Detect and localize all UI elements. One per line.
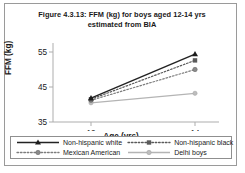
legend-key-non-hispanic-white: [15, 138, 61, 147]
chart-legend: Non-hispanic white Non-hispanic black Me…: [10, 136, 232, 159]
legend-key-mexican-american: [15, 148, 61, 157]
legend-label-mexican-american: Mexican American: [63, 149, 120, 156]
plot-area: FFM (kg) Age (yrs) 55 45 35 12 14: [13, 31, 229, 129]
y-axis-label: FFM (kg): [4, 41, 13, 75]
legend-label-non-hispanic-black: Non-hispanic black: [174, 139, 233, 146]
legend-key-delhi-boys: [126, 148, 172, 157]
legend-label-non-hispanic-white: Non-hispanic white: [63, 139, 122, 146]
y-tick-label-35: 35: [38, 118, 48, 127]
legend-key-non-hispanic-black: [126, 138, 172, 147]
x-tick-label-12: 12: [86, 129, 96, 131]
figure-title: Figure 4.3.13: FFM (kg) for boys aged 12…: [27, 10, 217, 30]
y-tick-label-55: 55: [38, 48, 48, 57]
series-delhi-boys: [89, 91, 197, 105]
line-chart: 55 45 35 12 14: [13, 31, 229, 131]
legend-item-mexican-american: Mexican American: [11, 148, 122, 157]
legend-item-delhi-boys: Delhi boys: [122, 148, 233, 157]
series-non-hispanic-white: [88, 51, 198, 100]
legend-item-non-hispanic-black: Non-hispanic black: [122, 138, 233, 147]
x-tick-label-14: 14: [190, 129, 200, 131]
legend-label-delhi-boys: Delhi boys: [174, 149, 207, 156]
y-tick-label-45: 45: [38, 83, 48, 92]
legend-item-non-hispanic-white: Non-hispanic white: [11, 138, 122, 147]
series-mexican-american: [89, 67, 197, 102]
